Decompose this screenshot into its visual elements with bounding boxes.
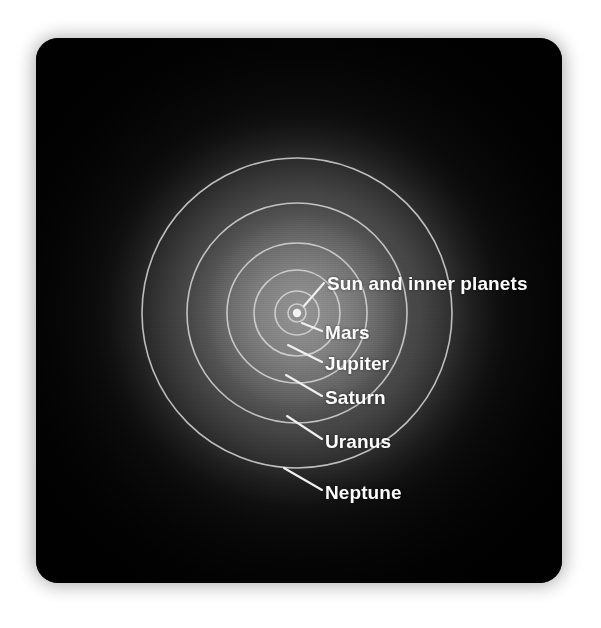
solar-system-diagram-panel: Sun and inner planetsMarsJupiterSaturnUr… — [36, 38, 562, 583]
orbit-label-saturn: Saturn — [325, 388, 386, 407]
sun-marker-icon — [293, 309, 301, 317]
orbit-label-jupiter: Jupiter — [325, 354, 389, 373]
orbit-label-uranus: Uranus — [325, 432, 391, 451]
orbit-label-neptune: Neptune — [325, 483, 402, 502]
orbit-label-mars: Mars — [325, 323, 370, 342]
leader-line-neptune — [284, 468, 322, 490]
leader-line-sun-and-inner-planets — [304, 283, 324, 306]
leader-line-uranus — [287, 416, 322, 439]
figure-root: Sun and inner planetsMarsJupiterSaturnUr… — [0, 0, 601, 628]
leader-line-saturn — [286, 375, 322, 396]
orbit-label-sun-and-inner-planets: Sun and inner planets — [327, 274, 528, 293]
leader-line-jupiter — [288, 345, 322, 362]
leader-lines-group — [284, 283, 324, 490]
orbit-rings-svg — [36, 38, 562, 583]
